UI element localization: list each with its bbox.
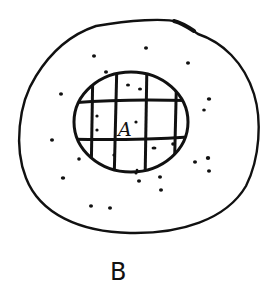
grid-line-v2: [114, 60, 117, 185]
grid-line-v1: [91, 60, 93, 185]
grid-line-v4: [174, 60, 177, 185]
label-b: B: [110, 258, 126, 286]
outer-region-bump: [174, 21, 194, 31]
outer-region-outline: [19, 20, 259, 233]
diagram-figure: A B: [0, 0, 277, 305]
label-a: A: [116, 118, 132, 140]
grid-line-v3: [145, 60, 147, 185]
inner-region: A: [60, 60, 200, 185]
